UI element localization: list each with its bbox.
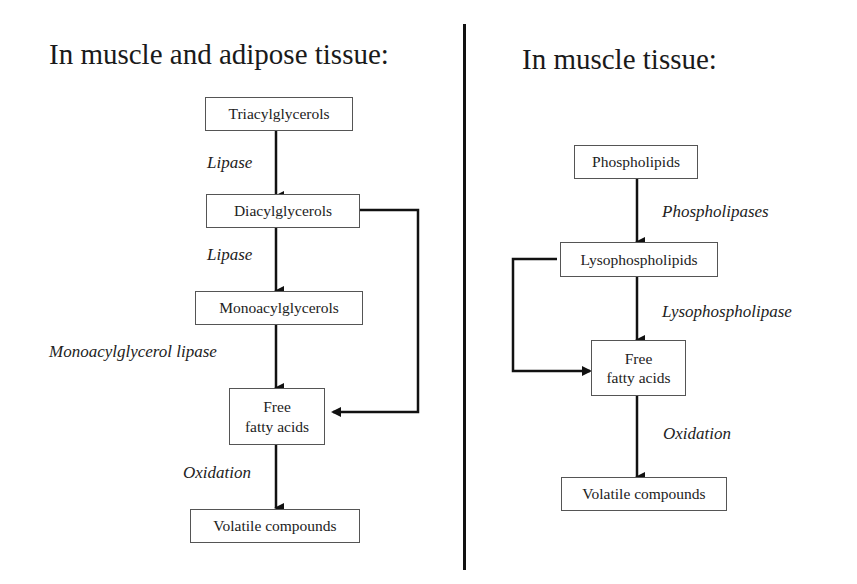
enzyme-oxidation-left: Oxidation: [183, 464, 251, 481]
node-volatile-compounds-right: Volatile compounds: [561, 477, 727, 511]
enzyme-lipase-2: Lipase: [207, 246, 252, 263]
left-panel-title: In muscle and adipose tissue:: [49, 40, 389, 69]
node-triacylglycerols: Triacylglycerols: [205, 97, 353, 131]
node-label: Diacylglycerols: [234, 201, 332, 220]
right-panel-title: In muscle tissue:: [522, 45, 717, 74]
node-label: Triacylglycerols: [228, 104, 329, 123]
node-label: Volatile compounds: [213, 516, 336, 535]
enzyme-lysophospholipase: Lysophospholipase: [662, 303, 792, 320]
node-label: Monoacylglycerols: [219, 298, 339, 317]
node-label-line1: Free: [263, 397, 291, 416]
node-monoacylglycerols: Monoacylglycerols: [195, 291, 363, 325]
enzyme-oxidation-right: Oxidation: [663, 425, 731, 442]
enzyme-monoacylglycerol-lipase: Monoacylglycerol lipase: [49, 343, 217, 360]
node-free-fatty-acids-right: Free fatty acids: [591, 340, 686, 396]
enzyme-lipase-1: Lipase: [207, 154, 252, 171]
node-label: Lysophospholipids: [580, 250, 697, 269]
node-label-line1: Free: [625, 349, 653, 368]
panel-divider: [463, 24, 466, 570]
flow-arrows: [0, 0, 857, 584]
node-phospholipids: Phospholipids: [574, 145, 698, 179]
node-label: Phospholipids: [592, 152, 680, 171]
enzyme-phospholipases: Phospholipases: [662, 203, 769, 220]
node-diacylglycerols: Diacylglycerols: [206, 194, 360, 228]
node-label-line2: fatty acids: [606, 368, 670, 387]
node-volatile-compounds-left: Volatile compounds: [190, 509, 360, 543]
node-label-line2: fatty acids: [245, 417, 309, 436]
node-label: Volatile compounds: [582, 484, 705, 503]
node-free-fatty-acids-left: Free fatty acids: [229, 388, 325, 445]
node-lysophospholipids: Lysophospholipids: [560, 242, 718, 277]
